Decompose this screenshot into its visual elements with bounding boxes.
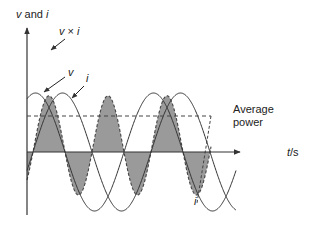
x-axis-label: t/s [287, 146, 299, 158]
product-label: v × i [59, 25, 80, 37]
current-pointer [72, 86, 84, 98]
current-bottom-label: i [194, 195, 197, 207]
current-label: i [86, 72, 89, 84]
average-power-label-line1: Average [233, 103, 274, 115]
average-power-label-line2: power [233, 116, 263, 128]
power-fill [27, 96, 211, 195]
voltage-label: v [68, 66, 75, 78]
power-shaded-area [27, 96, 211, 195]
product-pointer [51, 39, 65, 50]
power-diagram: v and i t/s v × i v i i Average power [0, 0, 317, 226]
voltage-pointer [44, 77, 65, 92]
y-axis-label: v and i [16, 8, 49, 20]
